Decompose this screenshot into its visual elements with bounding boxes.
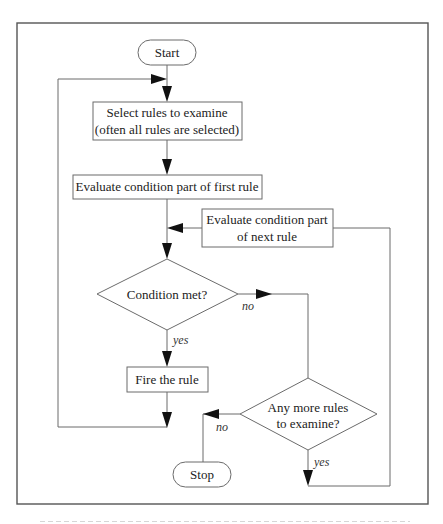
start-label: Start (155, 45, 180, 60)
edge-more-yes-loop (308, 228, 390, 486)
select-rules-label-line1: Select rules to examine (107, 105, 228, 120)
fire-rule-label: Fire the rule (135, 372, 199, 387)
arrowhead-down-icon (162, 351, 172, 367)
evaluate-next-label-line1: Evaluate condition part (206, 212, 328, 227)
start-node: Start (138, 40, 196, 65)
arrowhead-right-icon (151, 74, 167, 84)
more-yes-label: yes (313, 455, 330, 469)
arrowhead-down-icon (162, 86, 172, 102)
evaluate-first-label: Evaluate condition part of first rule (75, 179, 258, 194)
more-rules-node: Any more rules to examine? (240, 378, 377, 450)
more-rules-label-line1: Any more rules (268, 400, 349, 415)
evaluate-next-label-line2: of next rule (237, 229, 297, 244)
figure-caption-clipped (40, 516, 410, 524)
arrowhead-down-icon (162, 243, 172, 259)
stop-label: Stop (190, 467, 214, 482)
fire-rule-node: Fire the rule (127, 367, 208, 392)
arrowhead-left-icon (203, 409, 219, 419)
stop-node: Stop (173, 462, 231, 487)
select-rules-node: Select rules to examine (often all rules… (93, 102, 242, 140)
condition-met-node: Condition met? (97, 259, 238, 330)
flowchart-diagram: Start Select rules to examine (often all… (0, 0, 443, 524)
evaluate-next-node: Evaluate condition part of next rule (202, 209, 333, 247)
more-no-label: no (216, 420, 228, 434)
more-rules-label-line2: to examine? (276, 416, 339, 431)
evaluate-first-node: Evaluate condition part of first rule (73, 175, 262, 199)
arrowhead-down-icon (162, 412, 172, 428)
arrowhead-down-icon (303, 470, 313, 486)
arrowhead-down-icon (162, 159, 172, 175)
arrowhead-right-icon (256, 289, 272, 299)
select-rules-label-line2: (often all rules are selected) (95, 122, 239, 137)
condition-yes-label: yes (172, 333, 189, 347)
condition-no-label: no (242, 299, 254, 313)
caption-clipped-line (40, 521, 410, 522)
arrowhead-left-icon (167, 223, 183, 233)
condition-met-label: Condition met? (127, 287, 208, 302)
